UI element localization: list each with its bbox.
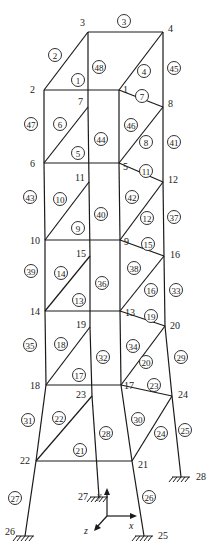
svg-text:3: 3 xyxy=(122,17,127,27)
member-label: 23 xyxy=(148,379,161,392)
svg-text:30: 30 xyxy=(134,415,144,425)
svg-text:13: 13 xyxy=(75,296,85,306)
member-line-16 xyxy=(120,256,164,311)
member-line-37 xyxy=(163,182,164,256)
x-axis-label: x xyxy=(128,520,134,531)
space-frame-diagram: y x z 1234567891011121314151617181920212… xyxy=(0,0,214,550)
member-line-4 xyxy=(119,32,163,90)
node-label: 12 xyxy=(168,174,178,185)
member-label: 39 xyxy=(25,265,38,278)
svg-text:44: 44 xyxy=(97,135,107,145)
node-label: 19 xyxy=(76,319,86,330)
member-line-7 xyxy=(119,107,163,163)
svg-text:29: 29 xyxy=(177,353,187,363)
node-label: 13 xyxy=(125,307,135,318)
z-axis-label: z xyxy=(83,525,88,536)
member-label: 42 xyxy=(126,191,139,204)
member-label: 5 xyxy=(72,147,85,160)
member-label: 47 xyxy=(25,118,38,131)
member-label: 35 xyxy=(24,339,37,352)
node-label: 3 xyxy=(80,17,85,28)
member-label: 1 xyxy=(72,74,85,87)
member-line-25 xyxy=(172,396,181,477)
svg-text:7: 7 xyxy=(140,92,145,102)
svg-text:41: 41 xyxy=(170,138,179,148)
member-label: 36 xyxy=(96,277,109,290)
member-label: 17 xyxy=(73,369,86,382)
fixed-support-icon xyxy=(13,536,34,541)
svg-text:25: 25 xyxy=(181,426,191,436)
svg-text:36: 36 xyxy=(98,279,108,289)
node-label: 28 xyxy=(196,471,206,482)
svg-text:10: 10 xyxy=(56,195,66,205)
svg-text:6: 6 xyxy=(58,120,63,130)
x-axis-arrowhead-icon xyxy=(130,513,137,519)
member-line-29 xyxy=(165,326,172,396)
member-line-33 xyxy=(164,256,165,326)
member-label: 2 xyxy=(49,49,62,62)
node-label: 27 xyxy=(78,491,88,502)
member-label: 27 xyxy=(9,492,22,505)
member-label: 15 xyxy=(142,238,155,251)
member-label: 46 xyxy=(125,119,138,132)
node-label: 21 xyxy=(138,459,148,470)
member-label: 30 xyxy=(132,413,145,426)
z-axis-arrowhead-icon xyxy=(94,524,101,531)
node-label: 14 xyxy=(30,306,40,317)
member-label: 10 xyxy=(54,193,67,206)
member-label: 44 xyxy=(95,133,108,146)
node-label: 18 xyxy=(30,380,40,391)
node-label: 8 xyxy=(168,98,173,109)
node-label: 23 xyxy=(76,389,86,400)
svg-text:26: 26 xyxy=(145,493,155,503)
svg-text:45: 45 xyxy=(170,64,180,74)
svg-text:31: 31 xyxy=(24,416,33,426)
member-line-31 xyxy=(36,385,46,461)
svg-text:15: 15 xyxy=(144,240,154,250)
z-axis-line xyxy=(97,516,107,527)
member-line-20 xyxy=(121,326,165,385)
member-label: 7 xyxy=(136,90,149,103)
member-label: 4 xyxy=(138,65,151,78)
node-label: 17 xyxy=(124,380,134,391)
member-label: 31 xyxy=(22,414,35,427)
member-label: 37 xyxy=(168,211,181,224)
node-label: 5 xyxy=(123,161,128,172)
svg-text:42: 42 xyxy=(128,193,137,203)
node-label: 26 xyxy=(5,526,15,537)
node-label: 11 xyxy=(75,172,85,183)
svg-text:46: 46 xyxy=(127,121,137,131)
node-label: 6 xyxy=(30,158,35,169)
svg-text:22: 22 xyxy=(55,414,64,424)
node-label: 20 xyxy=(170,320,180,331)
member-line-28 xyxy=(92,396,99,497)
svg-text:38: 38 xyxy=(130,264,140,274)
svg-text:33: 33 xyxy=(172,286,182,296)
svg-text:23: 23 xyxy=(150,381,160,391)
member-label: 24 xyxy=(155,427,168,440)
svg-text:4: 4 xyxy=(142,67,147,77)
svg-text:18: 18 xyxy=(57,340,67,350)
y-axis-label: y xyxy=(96,490,102,501)
fixed-support-icon xyxy=(169,477,190,482)
svg-text:20: 20 xyxy=(142,358,152,368)
member-label: 18 xyxy=(55,338,68,351)
member-line-40 xyxy=(89,182,90,256)
svg-text:24: 24 xyxy=(157,429,167,439)
fixed-support-icon xyxy=(132,536,153,541)
node-label: 9 xyxy=(124,236,129,247)
member-label: 41 xyxy=(168,136,181,149)
member-label: 43 xyxy=(24,191,37,204)
member-label: 19 xyxy=(145,310,158,323)
member-label: 3 xyxy=(118,15,131,28)
member-label: 28 xyxy=(100,427,113,440)
svg-text:34: 34 xyxy=(129,342,139,352)
svg-text:16: 16 xyxy=(147,286,157,296)
node-label: 22 xyxy=(20,455,30,466)
member-label: 32 xyxy=(97,351,110,364)
member-line-27 xyxy=(25,461,36,536)
svg-text:11: 11 xyxy=(142,167,151,177)
node-label: 2 xyxy=(30,84,35,95)
member-label: 33 xyxy=(170,284,183,297)
member-label: 26 xyxy=(143,491,156,504)
